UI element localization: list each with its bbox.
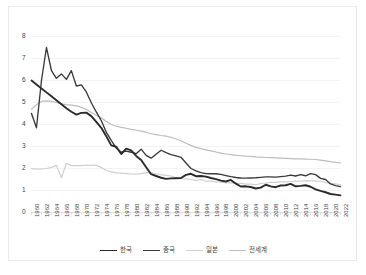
- x-axis-tick-label: 2004: [253, 203, 259, 216]
- x-axis-tick-label: 1964: [54, 203, 60, 216]
- chart-legend: 한국중국일본전세계: [0, 243, 366, 257]
- legend-line-swatch: [229, 250, 246, 251]
- legend-item-1[interactable]: 중국: [143, 247, 175, 254]
- x-axis-tick-label: 1998: [223, 203, 229, 216]
- x-axis-tick-label: 2018: [323, 203, 329, 216]
- legend-line-swatch: [143, 250, 160, 251]
- x-axis-tick-label: 2008: [273, 203, 279, 216]
- series-lines: [32, 48, 341, 196]
- x-axis-tick-label: 1978: [124, 203, 130, 216]
- legend-line-swatch: [186, 250, 203, 251]
- x-axis-tick-label: 2022: [343, 203, 349, 216]
- x-axis-tick-label: 1996: [214, 203, 220, 216]
- x-axis-tick-label: 1960: [34, 203, 40, 216]
- x-axis-tick-label: 1966: [64, 203, 70, 216]
- x-axis-tick-label: 1968: [74, 203, 80, 216]
- chart-canvas: [0, 0, 366, 275]
- legend-item-0[interactable]: 한국: [100, 247, 132, 254]
- y-axis-tick-label: 3: [12, 143, 26, 150]
- x-axis-tick-label: 2014: [303, 203, 309, 216]
- y-axis-tick-label: 4: [12, 121, 26, 128]
- legend-label: 전세계: [249, 247, 267, 254]
- x-axis-tick-label: 1970: [84, 203, 90, 216]
- x-axis-tick-label: 1980: [134, 203, 140, 216]
- x-axis-tick-label: 2002: [243, 203, 249, 216]
- x-axis-tick-label: 1982: [144, 203, 150, 216]
- legend-item-2[interactable]: 일본: [186, 247, 218, 254]
- y-axis-tick-label: 7: [12, 55, 26, 62]
- y-axis-tick-label: 1: [12, 187, 26, 194]
- y-axis-tick-label: 6: [12, 77, 26, 84]
- x-axis-tick-label: 2000: [233, 203, 239, 216]
- x-axis-tick-label: 1994: [204, 203, 210, 216]
- x-axis-tick-label: 1974: [104, 203, 110, 216]
- plot-area: 012345678 196019621964196619681970197219…: [0, 0, 366, 275]
- x-axis-tick-label: 1984: [154, 203, 160, 216]
- x-axis-tick-label: 2020: [333, 203, 339, 216]
- legend-label: 중국: [163, 247, 175, 254]
- series-line-0: [32, 81, 341, 196]
- x-axis-tick-label: 1990: [184, 203, 190, 216]
- y-axis-tick-label: 0: [12, 209, 26, 216]
- legend-label: 일본: [206, 247, 218, 254]
- y-axis-tick-label: 5: [12, 99, 26, 106]
- x-axis-tick-label: 1972: [94, 203, 100, 216]
- x-axis-tick-label: 1992: [194, 203, 200, 216]
- legend-label: 한국: [120, 247, 132, 254]
- series-line-3: [32, 101, 341, 163]
- x-axis-tick-label: 2016: [313, 203, 319, 216]
- x-axis-tick-label: 1986: [164, 203, 170, 216]
- legend-item-3[interactable]: 전세계: [229, 247, 267, 254]
- legend-line-swatch: [100, 250, 117, 251]
- chart-figure: 012345678 196019621964196619681970197219…: [0, 0, 366, 275]
- x-axis-tick-label: 1976: [114, 203, 120, 216]
- y-axis-tick-label: 8: [12, 33, 26, 40]
- x-axis-tick-label: 1988: [174, 203, 180, 216]
- x-axis-tick-label: 2012: [293, 203, 299, 216]
- x-axis-tick-label: 1962: [44, 203, 50, 216]
- y-axis-tick-label: 2: [12, 165, 26, 172]
- x-axis-tick-label: 2010: [283, 203, 289, 216]
- x-axis-tick-label: 2006: [263, 203, 269, 216]
